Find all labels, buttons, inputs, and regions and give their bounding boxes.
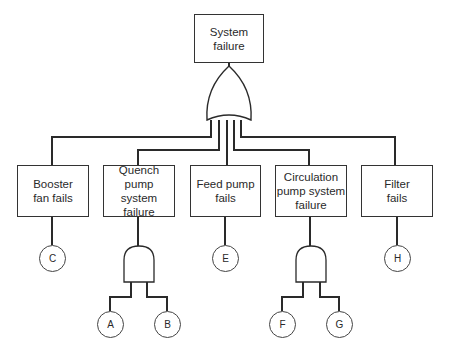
event-booster-fan-fails: Boosterfan fails bbox=[17, 165, 89, 217]
event-circulation-pump-system-failure: Circulationpump systemfailure bbox=[275, 165, 347, 217]
event-label-line: failure bbox=[277, 198, 345, 212]
event-quench-pump-system-failure: Quench pumpsystemfailure bbox=[103, 165, 175, 217]
event-label-line: fails bbox=[196, 191, 254, 205]
event-label-line: Circulation bbox=[277, 170, 345, 184]
event-label-line: Booster bbox=[33, 177, 73, 191]
event-label-line: fan fails bbox=[33, 191, 73, 205]
basic-event-b: B bbox=[154, 311, 181, 338]
basic-event-e: E bbox=[212, 245, 239, 272]
basic-event-h: H bbox=[384, 245, 411, 272]
and-gate-circulation bbox=[296, 246, 326, 282]
event-label-line: Filter bbox=[384, 177, 410, 191]
top-event-line2: failure bbox=[210, 39, 248, 53]
and-gate-quench bbox=[124, 246, 154, 282]
event-label-line: fails bbox=[384, 191, 410, 205]
event-label-line: Feed pump bbox=[196, 177, 254, 191]
top-event-system-failure: Systemfailure bbox=[194, 14, 264, 63]
or-gate bbox=[207, 66, 251, 120]
basic-event-f: F bbox=[269, 311, 296, 338]
basic-event-g: G bbox=[326, 311, 353, 338]
event-label-line: Quench pump bbox=[104, 163, 174, 191]
top-event-line1: System bbox=[210, 25, 248, 39]
basic-event-c: C bbox=[39, 245, 66, 272]
event-feed-pump-fails: Feed pumpfails bbox=[190, 165, 261, 217]
event-label-line: failure bbox=[104, 205, 174, 219]
event-label-line: pump system bbox=[277, 184, 345, 198]
event-filter-fails: Filterfails bbox=[361, 165, 433, 217]
event-label-line: system bbox=[104, 191, 174, 205]
basic-event-a: A bbox=[97, 311, 124, 338]
